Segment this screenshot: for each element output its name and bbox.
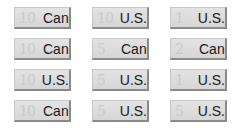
tile[interactable]: 10U.S. (14, 69, 71, 91)
tile-label: U.S. (120, 10, 147, 26)
tile-number: 10 (19, 72, 40, 88)
tile[interactable]: 10Can (14, 100, 71, 122)
tile[interactable]: 5U.S. (92, 100, 149, 122)
tile-number: 5 (97, 41, 119, 57)
tile[interactable]: 5U.S. (92, 69, 149, 91)
tile[interactable]: 1U.S. (170, 69, 227, 91)
tile[interactable]: 5U.S. (170, 100, 227, 122)
tile-number: 10 (19, 41, 41, 57)
tile-number: 10 (19, 103, 41, 119)
tile-number: 1 (175, 10, 196, 26)
tile-number: 2 (175, 41, 197, 57)
tile-label: U.S. (120, 103, 147, 119)
tile-label: U.S. (198, 72, 225, 88)
tile-label: Can (121, 41, 147, 57)
tile-label: U.S. (120, 72, 147, 88)
tile-label: Can (43, 10, 69, 26)
tile[interactable]: 10U.S. (92, 7, 149, 29)
tile-label: Can (199, 41, 225, 57)
tile[interactable]: 10Can (14, 38, 71, 60)
tile-label: U.S. (42, 72, 69, 88)
tile-number: 1 (175, 72, 196, 88)
tile-number: 5 (97, 72, 118, 88)
tile-number: 10 (97, 10, 118, 26)
tile-number: 5 (175, 103, 196, 119)
tile-label: Can (43, 103, 69, 119)
tile-label: U.S. (198, 10, 225, 26)
tile[interactable]: 1U.S. (170, 7, 227, 29)
tile[interactable]: 10Can (14, 7, 71, 29)
tile-label: Can (43, 41, 69, 57)
tile-number: 10 (19, 10, 41, 26)
tile-label: U.S. (198, 103, 225, 119)
tile-number: 5 (97, 103, 118, 119)
tile[interactable]: 2Can (170, 38, 227, 60)
tile[interactable]: 5Can (92, 38, 149, 60)
tile-grid: 10Can 10U.S. 1U.S. 10Can 5Can 2Can 10U.S… (14, 7, 227, 122)
